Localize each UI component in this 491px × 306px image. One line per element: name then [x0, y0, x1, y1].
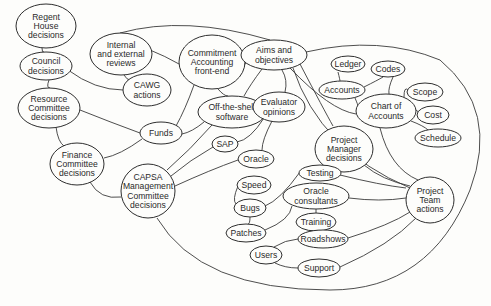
- edge-commitment-funds: [176, 85, 194, 126]
- node-training: Training: [296, 213, 336, 231]
- node-label: actions: [416, 204, 443, 214]
- node-schedule: Schedule: [415, 129, 461, 147]
- nodes-layer: RegentHousedecisionsCouncildecisionsInte…: [16, 4, 461, 277]
- edge-regent-council: [42, 48, 44, 52]
- node-label: Roadshows: [301, 234, 346, 244]
- node-cawg: CAWGactions: [123, 74, 171, 106]
- node-oracleconsultants: Oracleconsultants: [283, 183, 349, 209]
- node-label: Training: [301, 217, 332, 227]
- node-label: actions: [133, 90, 160, 100]
- edge-support-pteam: [340, 218, 416, 267]
- node-aims: Aims andobjectives: [241, 40, 307, 70]
- node-resource: ResourceCommitteedecisions: [18, 88, 80, 128]
- node-label: decisions: [31, 112, 67, 122]
- node-scope: Scope: [407, 83, 443, 101]
- node-commitment: CommitmentAccountingfront-end: [179, 35, 245, 89]
- edge-patches-oracleconsultants: [265, 206, 292, 230]
- node-label: Cost: [424, 110, 442, 120]
- node-label: Support: [304, 263, 335, 273]
- node-finance: FinanceCommitteedecisions: [50, 143, 104, 185]
- node-label: SAP: [216, 139, 233, 149]
- node-label: Speed: [242, 180, 267, 190]
- node-capsa: CAPSAManagementCommitteedecisions: [121, 164, 175, 218]
- node-label: reviews: [106, 58, 135, 68]
- node-label: decisions: [130, 200, 166, 210]
- node-council: Councildecisions: [20, 52, 72, 80]
- node-patches: Patches: [226, 224, 266, 242]
- node-label: software: [216, 112, 249, 122]
- node-label: Oracle: [243, 154, 269, 164]
- edge-aims-evaluator: [282, 70, 286, 92]
- node-label: Scope: [413, 87, 438, 97]
- node-oracle: Oracle: [238, 150, 274, 168]
- node-label: Patches: [230, 228, 261, 238]
- node-label: Accounts: [368, 111, 403, 121]
- edge-users-roadshows: [274, 239, 298, 247]
- node-label: decisions: [28, 30, 64, 40]
- edge-roadshows-pteam: [348, 212, 410, 238]
- node-label: decisions: [326, 153, 362, 163]
- node-support: Support: [298, 259, 340, 277]
- node-label: Schedule: [420, 133, 456, 143]
- node-cost: Cost: [417, 106, 449, 124]
- node-label: Ledger: [335, 59, 362, 69]
- edge-reviews-aims: [120, 25, 270, 40]
- edge-funds-offshelf: [182, 122, 204, 134]
- edge-users-support: [275, 263, 298, 268]
- edge-evaluator-oracle: [262, 121, 272, 150]
- node-reviews: Internaland externalreviews: [90, 33, 152, 75]
- edge-finance-capsa: [90, 182, 121, 197]
- node-label: objectives: [255, 55, 293, 65]
- node-users: Users: [250, 246, 282, 264]
- edge-oracle-capsa: [175, 160, 238, 186]
- edge-chart-pteam: [380, 128, 418, 180]
- node-accounts: Accounts: [319, 81, 365, 99]
- node-roadshows: Roadshows: [298, 230, 348, 248]
- node-chart: Chart ofAccounts: [356, 94, 416, 128]
- node-label: Funds: [149, 128, 173, 138]
- edge-council-resource: [48, 80, 50, 88]
- node-ledger: Ledger: [331, 56, 365, 72]
- edge-codes-chart: [389, 77, 393, 94]
- node-label: Users: [255, 250, 277, 260]
- influence-diagram: RegentHousedecisionsCouncildecisionsInte…: [0, 0, 491, 306]
- edge-commitment-offshelf: [218, 89, 228, 96]
- node-pteam: ProjectTeamactions: [406, 177, 454, 223]
- edge-pmdecisions-pteam: [364, 165, 410, 186]
- node-evaluator: Evaluatoropinions: [253, 92, 305, 122]
- node-label: front-end: [195, 66, 230, 76]
- node-speed: Speed: [237, 176, 271, 194]
- node-regent: RegentHousedecisions: [16, 4, 76, 48]
- edge-resource-finance: [56, 127, 64, 146]
- node-bugs: Bugs: [234, 199, 266, 217]
- edge-funds-finance: [104, 139, 142, 158]
- node-label: decisions: [28, 66, 64, 76]
- node-testing: Testing: [299, 165, 341, 181]
- node-label: decisions: [59, 168, 95, 178]
- edge-ledger-accounts: [338, 72, 340, 81]
- node-label: Codes: [376, 64, 401, 74]
- node-sap: SAP: [212, 136, 238, 152]
- node-label: consultants: [294, 196, 337, 206]
- edge-speed-bugs: [234, 186, 238, 204]
- edge-resource-funds: [80, 110, 140, 133]
- node-label: Testing: [306, 168, 333, 178]
- edge-oracleconsultants-pteam: [349, 198, 406, 200]
- edge-sap-capsa: [171, 147, 213, 176]
- node-codes: Codes: [371, 61, 405, 77]
- node-label: opinions: [263, 107, 295, 117]
- node-funds: Funds: [140, 122, 182, 144]
- edge-accounts-codes: [364, 77, 383, 87]
- edge-bugs-patches: [248, 217, 250, 224]
- edge-aims-offshelf: [244, 69, 262, 96]
- edge-reviews-commitment: [150, 50, 179, 64]
- node-label: Bugs: [240, 203, 260, 213]
- node-label: Accounts: [324, 85, 359, 95]
